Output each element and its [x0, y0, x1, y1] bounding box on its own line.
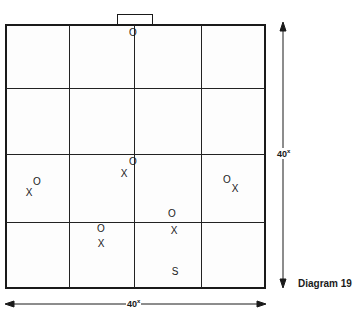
width-dimension-label: 40x: [126, 298, 141, 309]
width-value: 40: [127, 299, 137, 309]
arrow-left-icon: [5, 301, 14, 307]
height-value: 40: [277, 149, 287, 159]
arrow-down-icon: [280, 279, 286, 288]
dimension-arrows: [0, 0, 353, 320]
width-unit: x: [137, 298, 140, 304]
arrow-up-icon: [280, 22, 286, 31]
arrow-right-icon: [257, 301, 266, 307]
diagram-caption: Diagram 19: [298, 278, 352, 289]
height-dimension-label: 40x: [276, 148, 291, 159]
height-unit: x: [287, 148, 290, 154]
